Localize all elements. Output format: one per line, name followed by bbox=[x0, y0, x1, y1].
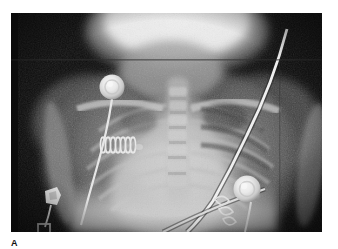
figure-container: A bbox=[0, 0, 338, 249]
radiograph-image bbox=[11, 13, 322, 232]
film-effects-layer bbox=[11, 13, 322, 232]
figure-caption-label: A bbox=[11, 238, 18, 248]
film-grain-overlay bbox=[11, 13, 322, 232]
radiograph-plate bbox=[11, 13, 322, 232]
